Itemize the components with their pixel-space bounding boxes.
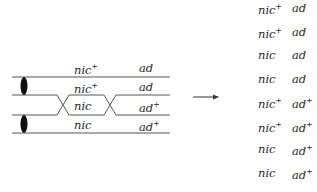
right-arrow-icon — [193, 95, 219, 100]
product-gene2-label: ad — [292, 50, 306, 62]
product-gene2-label: ad+ — [292, 168, 313, 182]
product-gene1-label: nic — [258, 168, 276, 180]
centromere-bottom-icon — [21, 115, 28, 133]
product-gene2-label: ad+ — [292, 121, 313, 135]
chromatid-gene2-label: ad+ — [139, 120, 160, 134]
product-gene1-label: nic+ — [258, 97, 282, 111]
chromatid-gene1-label: nic+ — [74, 63, 98, 77]
product-gene1-label: nic — [258, 144, 276, 156]
product-gene1-label: nic+ — [258, 3, 282, 17]
chromatid-gene1-label: nic+ — [74, 82, 98, 96]
product-gene1-label: nic — [258, 50, 276, 62]
chromatid-gene2-label: ad+ — [139, 101, 160, 115]
product-gene1-label: nic+ — [258, 27, 282, 41]
product-gene2-label: ad — [292, 27, 306, 39]
product-gene2-label: ad — [292, 3, 306, 15]
product-gene2-label: ad+ — [292, 97, 313, 111]
centromere-top-icon — [21, 77, 28, 95]
product-gene1-label: nic+ — [258, 121, 282, 135]
product-gene2-label: ad+ — [292, 144, 313, 158]
chromatid-gene2-label: ad — [139, 82, 153, 94]
chromatid-gene1-label: nic — [74, 101, 92, 113]
product-gene2-label: ad — [292, 74, 306, 86]
chromatid-gene1-label: nic — [74, 120, 92, 132]
chromatid-gene2-label: ad — [139, 63, 153, 75]
product-gene1-label: nic — [258, 74, 276, 86]
